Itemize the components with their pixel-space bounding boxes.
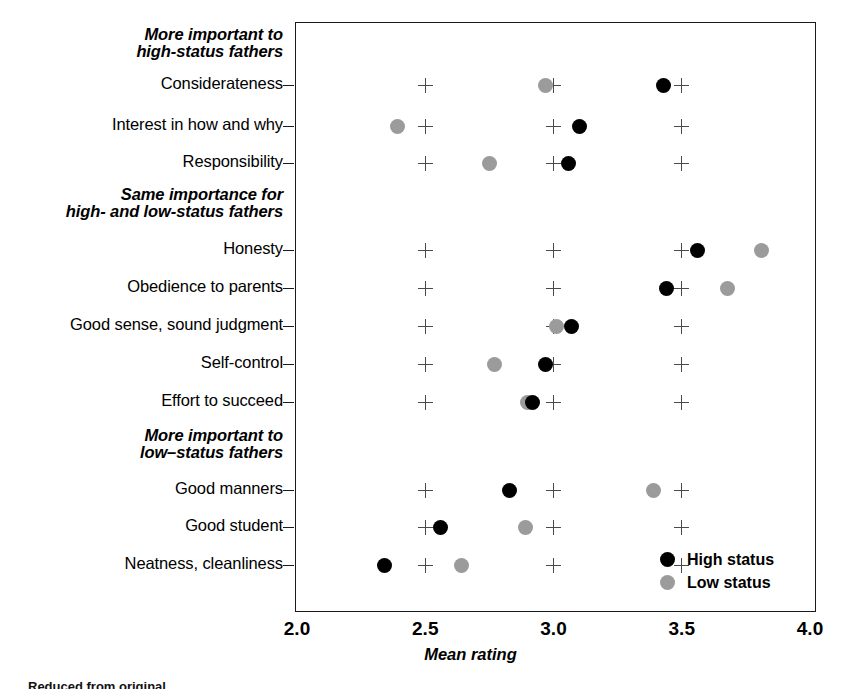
gridline-plus-marker-icon <box>674 357 689 372</box>
y-axis-tick-mark <box>283 163 294 164</box>
y-axis-group-heading-2: Same importance forhigh- and low-status … <box>0 186 283 221</box>
y-axis-category-label: Obedience to parents <box>0 278 283 295</box>
caption-sliver: Reduced from original <box>28 679 166 689</box>
x-axis-tick-label: 4.0 <box>797 618 823 640</box>
y-axis-category-label: Good manners <box>0 480 283 497</box>
gridline-plus-marker-icon <box>674 156 689 171</box>
legend-label-high-status: High status <box>687 551 774 569</box>
gridline-plus-marker-icon <box>674 483 689 498</box>
group-heading-line-2: high- and low-status fathers <box>0 203 283 220</box>
y-axis-tick-mark <box>283 250 294 251</box>
group-heading-line-1: More important to <box>0 427 283 444</box>
group-heading-line-2: high-status fathers <box>0 43 283 60</box>
gridline-plus-marker-icon <box>546 156 561 171</box>
legend-item-high-status: High status <box>660 548 774 571</box>
gridline-plus-marker-icon <box>674 119 689 134</box>
gridline-plus-marker-icon <box>674 319 689 334</box>
gridline-plus-marker-icon <box>418 281 433 296</box>
gridline-plus-marker-icon <box>418 78 433 93</box>
gridline-plus-marker-icon <box>546 395 561 410</box>
gridline-plus-marker-icon <box>546 281 561 296</box>
data-point-high-status <box>656 78 671 93</box>
gridline-plus-marker-icon <box>546 558 561 573</box>
gridline-plus-marker-icon <box>418 119 433 134</box>
data-point-high-status <box>561 156 576 171</box>
y-axis-tick-mark <box>283 364 294 365</box>
x-axis-tick-label: 3.0 <box>540 618 566 640</box>
gridline-plus-marker-icon <box>546 243 561 258</box>
y-axis-tick-mark <box>283 490 294 491</box>
y-axis-category-label: Considerateness <box>0 75 283 92</box>
y-axis-tick-mark <box>283 85 294 86</box>
gridline-plus-marker-icon <box>418 395 433 410</box>
data-point-high-status <box>659 281 674 296</box>
group-heading-line-2: low–status fathers <box>0 444 283 461</box>
y-axis-tick-mark <box>283 288 294 289</box>
gridline-plus-marker-icon <box>546 119 561 134</box>
gridline-plus-marker-icon <box>674 281 689 296</box>
y-axis-tick-mark <box>283 527 294 528</box>
x-axis-title-text: Mean rating <box>424 645 517 664</box>
gridline-plus-marker-icon <box>418 483 433 498</box>
y-axis-tick-mark <box>283 402 294 403</box>
data-point-high-status <box>572 119 587 134</box>
x-axis-tick-label: 2.0 <box>284 618 310 640</box>
data-point-low-status <box>518 520 533 535</box>
y-axis-category-label: Interest in how and why <box>0 116 283 133</box>
data-point-high-status <box>433 520 448 535</box>
gridline-plus-marker-icon <box>418 520 433 535</box>
y-axis-tick-mark <box>283 126 294 127</box>
gridline-plus-marker-icon <box>674 520 689 535</box>
data-point-low-status <box>549 319 564 334</box>
legend-item-low-status: Low status <box>660 571 774 594</box>
gridline-plus-marker-icon <box>418 156 433 171</box>
data-point-high-status <box>690 243 705 258</box>
data-point-low-status <box>720 281 735 296</box>
y-axis-group-heading-3: More important tolow–status fathers <box>0 427 283 462</box>
x-axis-title: Mean rating <box>0 645 841 664</box>
y-axis-category-label: Responsibility <box>0 153 283 170</box>
group-heading-line-1: More important to <box>0 26 283 43</box>
y-axis-tick-mark <box>283 565 294 566</box>
legend-label-low-status: Low status <box>687 574 771 592</box>
data-point-high-status <box>502 483 517 498</box>
legend: High status Low status <box>660 548 774 594</box>
y-axis-category-label: Good sense, sound judgment <box>0 316 283 333</box>
legend-marker-low-status-icon <box>660 575 675 590</box>
data-point-low-status <box>538 78 553 93</box>
data-point-low-status <box>754 243 769 258</box>
figure-scatter-mean-rating: More important tohigh-status fathersSame… <box>0 0 841 689</box>
data-point-high-status <box>538 357 553 372</box>
y-axis-group-heading-1: More important tohigh-status fathers <box>0 26 283 61</box>
gridline-plus-marker-icon <box>418 558 433 573</box>
y-axis-category-label: Effort to succeed <box>0 392 283 409</box>
gridline-plus-marker-icon <box>546 520 561 535</box>
data-point-low-status <box>482 156 497 171</box>
gridline-plus-marker-icon <box>418 319 433 334</box>
gridline-plus-marker-icon <box>418 243 433 258</box>
y-axis-category-label: Self-control <box>0 354 283 371</box>
data-point-low-status <box>487 357 502 372</box>
y-axis-tick-mark <box>283 326 294 327</box>
x-axis-tick-label: 3.5 <box>669 618 695 640</box>
x-axis-tick-label: 2.5 <box>412 618 438 640</box>
gridline-plus-marker-icon <box>674 243 689 258</box>
y-axis-category-label: Neatness, cleanliness <box>0 555 283 572</box>
gridline-plus-marker-icon <box>674 78 689 93</box>
data-point-high-status <box>377 558 392 573</box>
data-point-high-status <box>564 319 579 334</box>
y-axis-category-label: Good student <box>0 517 283 534</box>
data-point-low-status <box>390 119 405 134</box>
group-heading-line-1: Same importance for <box>0 186 283 203</box>
y-axis-category-label: Honesty <box>0 240 283 257</box>
gridline-plus-marker-icon <box>674 395 689 410</box>
legend-marker-high-status-icon <box>660 552 675 567</box>
data-point-low-status <box>454 558 469 573</box>
data-point-high-status <box>525 395 540 410</box>
data-point-low-status <box>646 483 661 498</box>
gridline-plus-marker-icon <box>546 483 561 498</box>
gridline-plus-marker-icon <box>418 357 433 372</box>
